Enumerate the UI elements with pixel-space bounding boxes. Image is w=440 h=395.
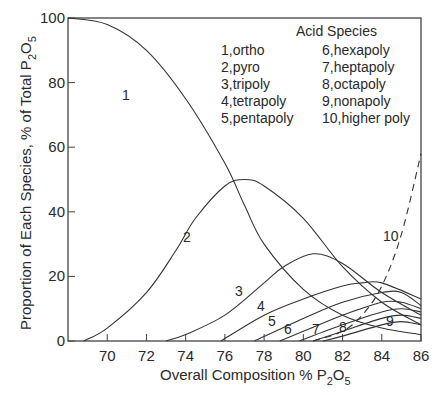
- legend: Acid Species 1,ortho2,pyro3,tripoly4,tet…: [221, 23, 410, 126]
- curve-label-3: 3: [235, 283, 243, 299]
- curve-label-1: 1: [122, 87, 130, 103]
- x-tick-label: 80: [295, 347, 312, 364]
- curve-label-6: 6: [284, 321, 292, 337]
- x-tick-label: 78: [256, 347, 273, 364]
- legend-entry: 4,tetrapoly: [221, 93, 286, 109]
- x-tick-label: 86: [413, 347, 430, 364]
- chart: 707274767880828486020406080100 Acid Spec…: [0, 0, 440, 395]
- legend-entry: 1,ortho: [221, 42, 265, 58]
- x-axis-title-text: Overall Composition % P: [160, 366, 327, 383]
- x-axis-title: Overall Composition % P2O5: [160, 366, 351, 387]
- curve-octapoly: [313, 315, 421, 341]
- y-tick-label: 100: [40, 9, 65, 26]
- y-tick-label: 40: [48, 203, 65, 220]
- curve-pyro: [84, 180, 421, 342]
- x-tick-label: 70: [99, 347, 116, 364]
- y-axis-title: Proportion of Each Species, % of Total P…: [17, 36, 38, 330]
- legend-title: Acid Species: [296, 23, 377, 39]
- y-tick-label: 60: [48, 138, 65, 155]
- curve-label-10: 10: [383, 228, 399, 244]
- curve-label-9: 9: [386, 313, 394, 329]
- x-tick-label: 84: [373, 347, 390, 364]
- legend-entry: 9,nonapoly: [322, 93, 391, 109]
- x-tick-label: 82: [334, 347, 351, 364]
- curve-label-4: 4: [257, 298, 265, 314]
- y-tick-label: 0: [57, 332, 65, 349]
- legend-entry: 6,hexapoly: [322, 42, 390, 58]
- legend-entry: 2,pyro: [221, 59, 260, 75]
- legend-entry: 3,tripoly: [221, 76, 270, 92]
- curve-tetrapoly: [221, 282, 421, 341]
- legend-entry: 7,heptapoly: [322, 59, 394, 75]
- curve-label-5: 5: [268, 313, 276, 329]
- legend-entry: 10,higher poly: [322, 110, 410, 126]
- legend-entry: 5,pentapoly: [221, 110, 293, 126]
- curve-label-8: 8: [339, 319, 347, 335]
- x-tick-label: 76: [217, 347, 234, 364]
- curve-hexapoly: [280, 301, 421, 341]
- curve-higher-poly: [313, 154, 421, 341]
- legend-entry: 8,octapoly: [322, 76, 386, 92]
- y-tick-label: 80: [48, 74, 65, 91]
- x-tick-label: 72: [138, 347, 155, 364]
- curve-label-2: 2: [183, 229, 191, 245]
- curve-nonapoly: [323, 322, 421, 341]
- x-tick-label: 74: [177, 347, 194, 364]
- y-tick-label: 20: [48, 267, 65, 284]
- curve-label-7: 7: [312, 321, 320, 337]
